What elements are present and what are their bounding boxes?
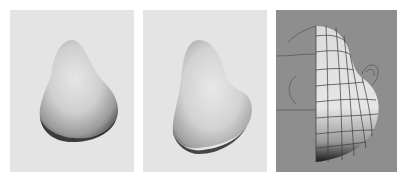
nose-render-side xyxy=(143,10,267,172)
panel-nose-wireframe xyxy=(276,10,397,172)
nose-render-three-quarter xyxy=(10,10,134,172)
panel-nose-three-quarter xyxy=(10,10,134,172)
panel-nose-side xyxy=(143,10,267,172)
nose-wireframe-mesh xyxy=(276,10,397,172)
